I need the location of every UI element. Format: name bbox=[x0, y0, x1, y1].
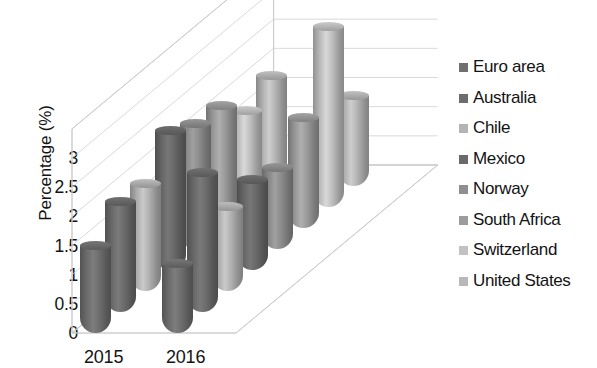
legend-item-mexico[interactable]: Mexico bbox=[459, 144, 597, 175]
legend-swatch-icon bbox=[459, 216, 468, 225]
x-axis-tick-2016: 2016 bbox=[166, 347, 205, 368]
plot-area: 20152016 bbox=[0, 0, 470, 368]
legend-swatch-icon bbox=[459, 246, 468, 255]
legend-item-south-africa[interactable]: South Africa bbox=[459, 205, 597, 236]
legend-item-label: Australia bbox=[473, 88, 536, 108]
legend-swatch-icon bbox=[459, 124, 468, 133]
legend-item-norway[interactable]: Norway bbox=[459, 174, 597, 205]
legend-item-label: Chile bbox=[473, 118, 510, 138]
legend-item-chile[interactable]: Chile bbox=[459, 113, 597, 144]
cylinder-top-cap bbox=[187, 168, 218, 177]
legend-item-label: South Africa bbox=[473, 210, 560, 230]
legend-swatch-icon bbox=[459, 63, 468, 72]
chart-legend: Euro areaAustraliaChileMexicoNorwaySouth… bbox=[459, 52, 597, 296]
cylinder-top-cap bbox=[105, 197, 136, 206]
cylinder-top-cap bbox=[256, 71, 287, 80]
bar-cylinder bbox=[162, 259, 193, 338]
legend-swatch-icon bbox=[459, 277, 468, 286]
cylinder-top-cap bbox=[262, 163, 293, 172]
legend-item-label: Mexico bbox=[473, 149, 525, 169]
cylinder-top-cap bbox=[206, 101, 237, 110]
legend-item-label: Switzerland bbox=[473, 240, 557, 260]
cylinder-body bbox=[80, 246, 111, 334]
cylinder-top-cap bbox=[288, 113, 319, 122]
legend-item-label: United States bbox=[473, 271, 571, 291]
cylinder-top-cap bbox=[80, 241, 111, 250]
cylinder-top-cap bbox=[162, 259, 193, 268]
legend-swatch-icon bbox=[459, 155, 468, 164]
cylinder-top-cap bbox=[155, 126, 186, 135]
legend-item-label: Euro area bbox=[473, 57, 545, 77]
legend-item-euro-area[interactable]: Euro area bbox=[459, 52, 597, 83]
legend-item-switzerland[interactable]: Switzerland bbox=[459, 235, 597, 266]
legend-item-label: Norway bbox=[473, 179, 529, 199]
bars-layer bbox=[0, 0, 470, 368]
legend-swatch-icon bbox=[459, 94, 468, 103]
cylinder-body bbox=[162, 263, 193, 333]
legend-item-united-states[interactable]: United States bbox=[459, 266, 597, 297]
legend-swatch-icon bbox=[459, 185, 468, 194]
chart-root: Percentage (%) 00.511.522.53 20152016 Eu… bbox=[0, 0, 597, 368]
cylinder-top-cap bbox=[313, 22, 344, 31]
x-axis-tick-2015: 2015 bbox=[84, 347, 123, 368]
cylinder-top-cap bbox=[130, 179, 161, 188]
legend-item-australia[interactable]: Australia bbox=[459, 83, 597, 114]
bar-cylinder bbox=[80, 241, 111, 338]
